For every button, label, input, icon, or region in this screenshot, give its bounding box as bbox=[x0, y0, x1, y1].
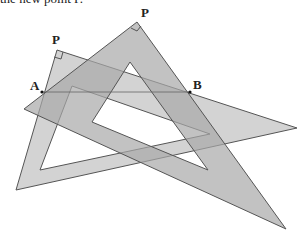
label-b: B bbox=[193, 77, 202, 92]
label-p-top: P bbox=[141, 5, 149, 20]
label-a: A bbox=[30, 78, 40, 93]
set-squares-diagram: P P A B bbox=[0, 0, 306, 245]
label-p-left: P bbox=[52, 32, 60, 47]
point-a bbox=[40, 90, 43, 93]
point-b bbox=[188, 90, 191, 93]
